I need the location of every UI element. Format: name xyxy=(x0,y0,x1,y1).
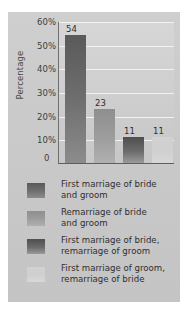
y-axis-zero-label: 0 xyxy=(44,153,49,163)
bar-3 xyxy=(152,137,173,163)
y-axis-tick-10: 10% xyxy=(22,135,56,145)
chart-figure: Percentage 60%50%40%30%20%10% 54231111 0… xyxy=(8,12,180,302)
y-axis-tick-40: 40% xyxy=(22,64,56,74)
bar-value-label-3: 11 xyxy=(153,126,164,136)
legend-item-2: First marriage of bride,remarriage of gr… xyxy=(8,236,180,264)
legend-swatch-0 xyxy=(27,183,45,198)
legend-label-0: First marriage of brideand groom xyxy=(61,179,177,201)
bar-1 xyxy=(94,109,115,163)
legend-label-0-line1: First marriage of bride xyxy=(61,179,177,190)
bar-value-label-1: 23 xyxy=(95,98,106,108)
bar-value-label-2: 11 xyxy=(124,126,135,136)
legend-label-3-line2: remarriage of bride xyxy=(61,274,177,285)
legend-label-2-line1: First marriage of bride, xyxy=(61,235,177,246)
bar-series: 54231111 xyxy=(59,22,174,163)
legend-item-0: First marriage of brideand groom xyxy=(8,180,180,208)
plot-area: 54231111 xyxy=(58,22,174,164)
legend-label-1-line1: Remarriage of bride xyxy=(61,207,177,218)
legend-item-3: First marriage of groom,remarriage of br… xyxy=(8,264,180,292)
y-axis-tick-labels: 60%50%40%30%20%10% xyxy=(22,22,56,164)
legend-label-3-line1: First marriage of groom, xyxy=(61,263,177,274)
legend-label-3: First marriage of groom,remarriage of br… xyxy=(61,263,177,285)
legend-item-1: Remarriage of brideand groom xyxy=(8,208,180,236)
chart-legend: First marriage of brideand groomRemarria… xyxy=(8,180,180,292)
legend-swatch-2 xyxy=(27,239,45,254)
y-axis-tick-20: 20% xyxy=(22,112,56,122)
legend-swatch-3 xyxy=(27,267,45,282)
y-axis-tick-50: 50% xyxy=(22,41,56,51)
y-axis-tick-30: 30% xyxy=(22,88,56,98)
bar-value-label-0: 54 xyxy=(66,24,77,34)
legend-label-2-line2: remarriage of groom xyxy=(61,246,177,257)
legend-label-1-line2: and groom xyxy=(61,218,177,229)
legend-label-2: First marriage of bride,remarriage of gr… xyxy=(61,235,177,257)
legend-label-1: Remarriage of brideand groom xyxy=(61,207,177,229)
bar-0 xyxy=(65,35,86,163)
bar-chart: Percentage 60%50%40%30%20%10% 54231111 0 xyxy=(8,12,180,172)
y-axis-tick-60: 60% xyxy=(22,17,56,27)
legend-label-0-line2: and groom xyxy=(61,190,177,201)
bar-2 xyxy=(123,137,144,163)
legend-swatch-1 xyxy=(27,211,45,226)
